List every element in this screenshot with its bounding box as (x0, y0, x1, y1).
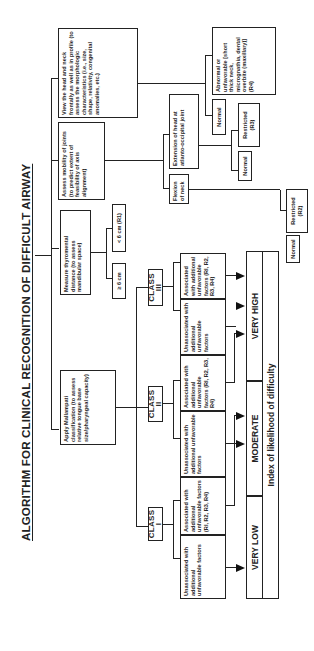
thyromental-greater-box: ≥ 6 cm (112, 263, 126, 299)
connector (51, 248, 59, 249)
connector (91, 252, 106, 253)
connector (173, 381, 174, 439)
arrow-down-icon (236, 440, 245, 448)
class-i-unassociated-box: Unassociated with additional unfavorable… (180, 535, 226, 599)
connector (231, 131, 232, 171)
class-ii-box: CLASS II (148, 386, 163, 422)
connector (163, 286, 173, 287)
class-ii-associated-box: Associated with additional unfavorable f… (180, 355, 226, 411)
connector (226, 567, 236, 568)
index-label-box: Index of likelihood of difficulty (262, 251, 279, 599)
connector (173, 263, 174, 311)
flexion-normal-box: Normal (286, 235, 300, 263)
connector (231, 170, 238, 171)
arrow-down-icon (236, 272, 245, 280)
connector (231, 130, 238, 131)
thyromental-box: Measure thyromental distance (to assess … (60, 210, 91, 295)
extension-normal-box: Normal (238, 151, 252, 181)
connector (226, 382, 234, 383)
assess-mobility-box: Assess mobility of joints (to predict ex… (58, 122, 105, 200)
connector (189, 189, 280, 190)
connector (138, 83, 205, 84)
extension-head-box: Extension of head at atlanto-occipital j… (169, 94, 199, 169)
title-connector (35, 255, 51, 256)
connector (106, 229, 107, 279)
connector (136, 526, 148, 527)
extension-restricted-box: Restricted (R3) (238, 103, 260, 147)
algorithm-diagram: ALGORITHM FOR CLINICAL RECOGNITION OF DI… (0, 0, 314, 651)
arrow-down-icon (236, 412, 245, 420)
connector (173, 500, 180, 501)
view-abnormal-box: Abnormal or unfavorable [short thick nec… (212, 27, 276, 95)
connector (136, 287, 148, 288)
thyromental-less-box: < 6 cm (R1) (112, 204, 126, 252)
connector (173, 501, 174, 559)
class-i-box: CLASS I (148, 507, 163, 541)
connector (173, 262, 180, 263)
flexion-neck-box: Flexion of neck (169, 174, 189, 204)
connector (116, 407, 136, 408)
connector (105, 160, 163, 161)
connector (163, 135, 164, 189)
very-low-cell: VERY LOW (246, 496, 263, 599)
view-normal-box: Normal (212, 99, 226, 135)
arrow-down-icon (236, 564, 245, 572)
class-iii-associated-box: Associated with additional unfavorable f… (180, 253, 226, 299)
flexion-restricted-box: Restricted (R2) (286, 189, 308, 233)
connector (173, 438, 180, 439)
connector (163, 403, 173, 404)
index-label: Index of likelihood of difficulty (266, 364, 276, 487)
connector (199, 145, 231, 146)
very-high-cell: VERY HIGH (246, 251, 263, 381)
connector (205, 115, 212, 116)
arrow-down-icon (236, 330, 245, 338)
connector (163, 524, 173, 525)
connector (280, 190, 281, 211)
connector (205, 55, 212, 56)
diagram-title: ALGORITHM FOR CLINICAL RECOGNITION OF DI… (20, 164, 32, 541)
mallampati-box: Apply Mallampati classification (to asse… (60, 370, 116, 445)
connector (136, 407, 148, 408)
class-iii-box: CLASS III (148, 269, 163, 306)
connector (205, 56, 206, 116)
moderate-cell: MODERATE (246, 381, 263, 496)
connector (173, 380, 180, 381)
class-ii-unassociated-box: Unassociated with additional unfavorable… (180, 411, 226, 477)
connector (226, 326, 236, 327)
connector (173, 558, 180, 559)
connector (51, 429, 59, 430)
main-spine (51, 78, 52, 430)
connector (173, 310, 180, 311)
connector (226, 443, 236, 444)
class-iii-unassociated-box: Unassociated with additional unfavorable… (180, 299, 226, 355)
view-head-neck-box: View the head and neck frontally as well… (58, 28, 138, 118)
connector (234, 416, 235, 506)
arrow-down-icon (236, 302, 245, 310)
connector (234, 334, 235, 383)
class-i-associated-box: Associated with additional unfavorable f… (180, 477, 226, 535)
connector (226, 505, 234, 506)
connector (226, 275, 236, 276)
